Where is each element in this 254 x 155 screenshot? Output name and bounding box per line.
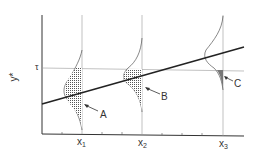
y-axis-label: y* [9,73,19,82]
region-label-b: B [161,92,168,102]
x-tick-x1: x1 [77,137,86,147]
x-axis [42,134,244,136]
threshold-label: τ [35,63,39,72]
threshold-line [42,68,244,71]
shade-b [124,69,143,112]
x-tick-x3: x3 [219,139,228,149]
x-tick-x2: x2 [138,138,147,148]
region-label-c: C [234,79,241,89]
region-label-a: A [100,110,107,120]
diagram-canvas [0,0,254,155]
